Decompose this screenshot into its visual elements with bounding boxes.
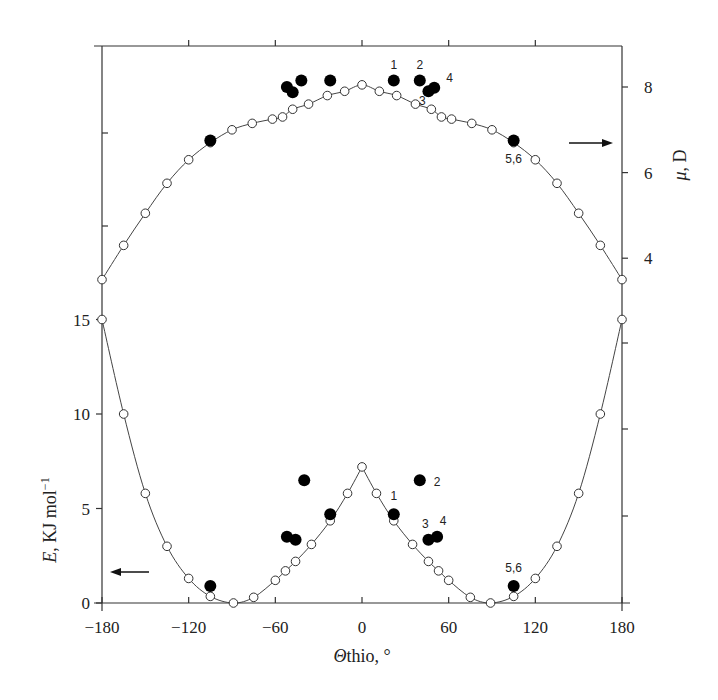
left-axis-units: , KJ mol xyxy=(40,490,60,552)
open-circle-marker xyxy=(437,113,446,122)
y-tick-label-right: 4 xyxy=(644,249,653,268)
filled-circle-marker xyxy=(428,82,440,94)
open-circle-marker xyxy=(372,489,381,498)
x-tick-label: 180 xyxy=(609,618,635,637)
open-circle-marker xyxy=(466,593,475,602)
open-circle-marker xyxy=(553,179,562,188)
x-tick-label: −180 xyxy=(84,618,119,637)
open-circle-marker xyxy=(323,91,332,100)
open-circle-marker xyxy=(618,275,627,284)
filled-circle-marker xyxy=(414,75,426,87)
open-circle-marker xyxy=(488,126,497,135)
open-circle-marker xyxy=(291,557,300,566)
open-circle-marker xyxy=(141,209,150,218)
open-circle-marker xyxy=(268,115,277,124)
open-circle-marker xyxy=(307,540,316,549)
x-tick-label: −60 xyxy=(262,618,289,637)
open-circle-marker xyxy=(228,126,237,135)
open-circle-marker xyxy=(444,576,453,585)
theta-symbol: Θ xyxy=(333,646,346,666)
open-circle-marker xyxy=(98,315,107,324)
x-axis-title-rest: thio, ° xyxy=(346,646,390,666)
axes-frame xyxy=(94,46,630,611)
filled-circle-marker xyxy=(295,75,307,87)
open-circle-marker xyxy=(358,81,367,90)
filled-circle-marker xyxy=(508,580,520,592)
open-circle-marker xyxy=(288,105,297,114)
right-axis-units: , D xyxy=(670,149,690,171)
filled-circle-marker xyxy=(388,508,400,520)
open-circle-marker xyxy=(486,599,495,608)
open-circle-marker xyxy=(574,209,583,218)
point-label-5-6: 5,6 xyxy=(505,561,522,575)
left-axis-exponent: −1 xyxy=(38,477,52,490)
filled-circle-marker xyxy=(287,86,299,98)
open-circle-marker xyxy=(163,542,172,551)
open-circle-marker xyxy=(249,593,258,602)
open-circle-marker xyxy=(447,115,456,124)
open-circle-marker xyxy=(248,119,257,128)
x-tick-label: 60 xyxy=(440,618,457,637)
filled-circle-marker xyxy=(414,474,426,486)
y-tick-label-left: 0 xyxy=(82,594,91,613)
filled-circle-marker xyxy=(324,75,336,87)
open-circle-marker xyxy=(392,91,401,100)
point-label-5-6: 5,6 xyxy=(505,152,522,166)
mu-symbol: μ xyxy=(670,171,690,181)
x-axis-title: Θthio, ° xyxy=(333,646,390,666)
filled-circle-marker xyxy=(204,580,216,592)
point-label-4: 4 xyxy=(446,71,453,85)
right-axis-title: μ, D xyxy=(670,149,690,181)
open-circle-marker xyxy=(553,542,562,551)
point-label-2: 2 xyxy=(416,58,423,72)
filled-circle-marker xyxy=(290,534,302,546)
open-circle-marker xyxy=(184,155,193,164)
open-circle-marker xyxy=(281,567,290,576)
open-circle-marker xyxy=(358,463,367,472)
open-circle-marker xyxy=(141,489,150,498)
point-label-4: 4 xyxy=(440,514,447,528)
open-circle-marker xyxy=(434,567,443,576)
y-tick-label-right: 6 xyxy=(644,164,653,183)
open-circle-marker xyxy=(119,241,128,250)
annotations: 12345,612345,6 xyxy=(110,58,613,576)
e-symbol: E xyxy=(40,552,60,564)
data-curves xyxy=(102,85,622,603)
open-circle-marker xyxy=(596,410,605,419)
dipole-curve xyxy=(102,85,622,280)
point-label-1: 1 xyxy=(390,58,397,72)
x-tick-label: 120 xyxy=(523,618,549,637)
filled-circle-marker xyxy=(431,531,443,543)
data-markers xyxy=(98,75,627,608)
point-label-3: 3 xyxy=(419,94,426,108)
open-circle-marker xyxy=(618,315,627,324)
open-circle-marker xyxy=(98,275,107,284)
energy-curve-right xyxy=(362,320,622,604)
y-tick-label-left: 10 xyxy=(73,405,90,424)
open-circle-marker xyxy=(531,155,540,164)
point-label-2: 2 xyxy=(434,475,441,489)
y-tick-label-left: 5 xyxy=(82,500,91,519)
open-circle-marker xyxy=(531,574,540,583)
axis-ticks: −180−120−60060120180051015468 xyxy=(73,40,653,637)
filled-circle-marker xyxy=(508,135,520,147)
open-circle-marker xyxy=(278,113,287,122)
open-circle-marker xyxy=(574,489,583,498)
open-circle-marker xyxy=(424,557,433,566)
open-circle-marker xyxy=(467,119,476,128)
open-circle-marker xyxy=(184,574,193,583)
open-circle-marker xyxy=(427,105,436,114)
open-circle-marker xyxy=(229,599,238,608)
energy-curve-left xyxy=(102,320,362,604)
left-axis-title: E, KJ mol−1 xyxy=(38,477,60,563)
y-tick-label-left: 15 xyxy=(73,311,90,330)
open-circle-marker xyxy=(408,540,417,549)
open-circle-marker xyxy=(271,576,280,585)
x-tick-label: −120 xyxy=(171,618,206,637)
open-circle-marker xyxy=(343,489,352,498)
point-label-3: 3 xyxy=(422,517,429,531)
open-circle-marker xyxy=(596,241,605,250)
filled-circle-marker xyxy=(388,75,400,87)
open-circle-marker xyxy=(375,87,384,96)
filled-circle-marker xyxy=(298,474,310,486)
